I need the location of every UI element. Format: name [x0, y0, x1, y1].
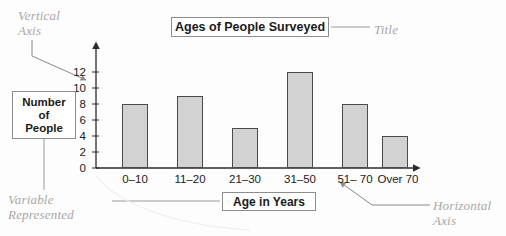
ytick-label: 0	[66, 162, 86, 174]
xtick-label: 11–20	[163, 173, 217, 185]
diagram-canvas: 0 2 4 6 8 10 12 0–10 11–20 21–30 31–50 5…	[0, 0, 506, 236]
annotation-vertical-axis: Vertical Axis	[18, 8, 60, 38]
xtick-label: 0–10	[110, 173, 160, 185]
bar-31-50	[287, 72, 313, 168]
bar-11-20	[177, 96, 203, 168]
bar-over-70	[382, 136, 408, 168]
bar-51-70	[342, 104, 368, 168]
ytick-label: 12	[66, 66, 86, 78]
x-axis-label-callout: Age in Years	[222, 192, 316, 211]
y-axis-label-callout: Number of People	[12, 91, 76, 139]
annotation-title: Title	[374, 22, 398, 37]
bar-0-10	[122, 104, 148, 168]
xtick-label: 21–30	[218, 173, 272, 185]
annotation-horizontal-axis: Horizontal Axis	[433, 198, 491, 228]
ytick-label: 2	[66, 146, 86, 158]
annotation-variable-represented: Variable Represented	[8, 192, 74, 222]
xtick-label: 31–50	[273, 173, 327, 185]
xtick-label: Over 70	[370, 173, 426, 185]
chart-title-callout: Ages of People Surveyed	[171, 17, 329, 37]
bar-21-30	[232, 128, 258, 168]
